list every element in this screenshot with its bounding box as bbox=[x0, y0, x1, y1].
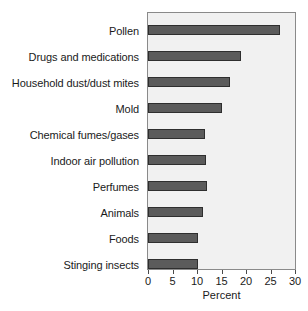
x-axis-tick bbox=[173, 270, 174, 274]
bar bbox=[148, 181, 207, 191]
bar-chart: Pollen Drugs and medications Household d… bbox=[0, 0, 308, 311]
bar bbox=[148, 103, 222, 113]
category-axis-labels: Pollen Drugs and medications Household d… bbox=[0, 12, 143, 270]
x-axis-tick-label: 10 bbox=[191, 275, 203, 287]
x-axis-tick bbox=[197, 270, 198, 274]
x-axis-tick-label: 25 bbox=[264, 275, 276, 287]
plot-area bbox=[147, 12, 296, 270]
bar bbox=[148, 51, 241, 61]
category-label: Indoor air pollution bbox=[50, 153, 139, 169]
x-axis-tick bbox=[246, 270, 247, 274]
bar bbox=[148, 155, 206, 165]
x-axis-tick-label: 30 bbox=[289, 275, 301, 287]
bar bbox=[148, 233, 198, 243]
category-label: Household dust/dust mites bbox=[12, 75, 139, 91]
x-axis-tick-label: 5 bbox=[169, 275, 175, 287]
bar bbox=[148, 25, 280, 35]
x-axis-tick bbox=[222, 270, 223, 274]
x-axis-tick bbox=[295, 270, 296, 274]
bar bbox=[148, 259, 198, 269]
x-axis-tick bbox=[271, 270, 272, 274]
x-axis-tick-label: 15 bbox=[215, 275, 227, 287]
category-label: Foods bbox=[109, 231, 139, 247]
category-label: Chemical fumes/gases bbox=[30, 127, 139, 143]
bars-layer bbox=[148, 13, 295, 269]
category-label: Mold bbox=[116, 101, 139, 117]
x-axis-title: Percent bbox=[147, 289, 296, 301]
category-label: Animals bbox=[101, 205, 139, 221]
x-axis-tick-label: 20 bbox=[240, 275, 252, 287]
x-axis-tick bbox=[148, 270, 149, 274]
category-label: Stinging insects bbox=[64, 257, 139, 273]
category-label: Pollen bbox=[109, 23, 139, 39]
category-label: Perfumes bbox=[93, 179, 139, 195]
bar bbox=[148, 129, 205, 139]
x-axis: 051015202530 Percent bbox=[147, 270, 296, 310]
x-axis-tick-label: 0 bbox=[145, 275, 151, 287]
bar bbox=[148, 77, 230, 87]
bar bbox=[148, 207, 203, 217]
category-label: Drugs and medications bbox=[29, 49, 139, 65]
